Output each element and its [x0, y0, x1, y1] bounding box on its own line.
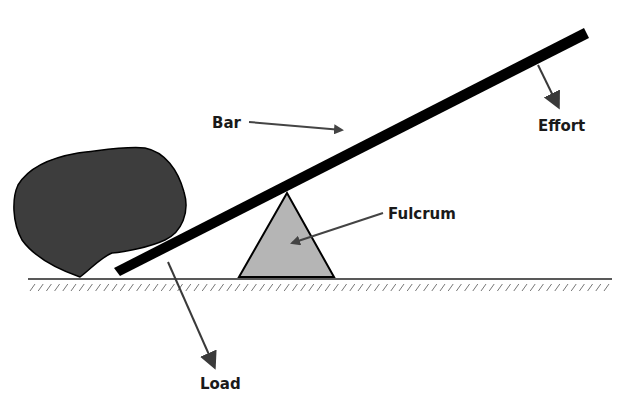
- hatch-mark: [169, 284, 174, 291]
- hatch-mark: [415, 284, 420, 291]
- hatch-mark: [46, 284, 51, 291]
- hatch-mark: [489, 284, 494, 291]
- bar-arrow: [249, 122, 342, 130]
- hatch-mark: [227, 284, 232, 291]
- hatch-mark: [202, 284, 207, 291]
- hatch-mark: [579, 284, 584, 291]
- hatch-mark: [448, 284, 453, 291]
- hatch-mark: [301, 284, 306, 291]
- hatch-mark: [153, 284, 158, 291]
- hatch-mark: [55, 284, 60, 291]
- hatch-mark: [465, 284, 470, 291]
- hatch-mark: [284, 284, 289, 291]
- hatch-mark: [514, 284, 519, 291]
- hatch-mark: [325, 284, 330, 291]
- hatch-mark: [38, 284, 43, 291]
- hatch-mark: [481, 284, 486, 291]
- hatch-mark: [473, 284, 478, 291]
- hatch-mark: [547, 284, 552, 291]
- hatch-mark: [563, 284, 568, 291]
- hatch-mark: [358, 284, 363, 291]
- hatch-mark: [112, 284, 117, 291]
- hatch-mark: [210, 284, 215, 291]
- hatch-mark: [268, 284, 273, 291]
- hatch-mark: [588, 284, 593, 291]
- hatch-mark: [604, 284, 609, 291]
- hatch-mark: [555, 284, 560, 291]
- hatch-mark: [506, 284, 511, 291]
- hatch-mark: [317, 284, 322, 291]
- effort-label: Effort: [538, 117, 585, 135]
- hatch-mark: [432, 284, 437, 291]
- hatch-mark: [399, 284, 404, 291]
- bar-label: Bar: [212, 114, 242, 132]
- hatch-mark: [407, 284, 412, 291]
- hatch-mark: [145, 284, 150, 291]
- hatch-mark: [260, 284, 265, 291]
- load-rock: [14, 147, 186, 277]
- hatch-mark: [104, 284, 109, 291]
- hatch-mark: [456, 284, 461, 291]
- ground-hatching: [30, 284, 609, 291]
- hatch-mark: [79, 284, 84, 291]
- hatch-mark: [292, 284, 297, 291]
- hatch-mark: [128, 284, 133, 291]
- hatch-mark: [235, 284, 240, 291]
- hatch-mark: [366, 284, 371, 291]
- hatch-mark: [350, 284, 355, 291]
- hatch-mark: [571, 284, 576, 291]
- hatch-mark: [596, 284, 601, 291]
- lever-diagram: Bar Effort Fulcrum Load: [0, 0, 627, 403]
- hatch-mark: [440, 284, 445, 291]
- hatch-mark: [71, 284, 76, 291]
- hatch-mark: [96, 284, 101, 291]
- fulcrum-label: Fulcrum: [388, 205, 456, 223]
- load-label: Load: [200, 375, 241, 393]
- lever-bar: [114, 28, 589, 276]
- hatch-mark: [243, 284, 248, 291]
- hatch-mark: [538, 284, 543, 291]
- load-arrow: [168, 262, 214, 366]
- hatch-mark: [309, 284, 314, 291]
- hatch-mark: [342, 284, 347, 291]
- hatch-mark: [424, 284, 429, 291]
- hatch-mark: [374, 284, 379, 291]
- hatch-mark: [219, 284, 224, 291]
- hatch-mark: [530, 284, 535, 291]
- hatch-mark: [87, 284, 92, 291]
- hatch-mark: [391, 284, 396, 291]
- hatch-mark: [137, 284, 142, 291]
- ground: [28, 279, 612, 291]
- hatch-mark: [251, 284, 256, 291]
- hatch-mark: [30, 284, 35, 291]
- hatch-mark: [63, 284, 68, 291]
- hatch-mark: [194, 284, 199, 291]
- hatch-mark: [383, 284, 388, 291]
- hatch-mark: [161, 284, 166, 291]
- hatch-mark: [120, 284, 125, 291]
- hatch-mark: [186, 284, 191, 291]
- effort-arrow: [538, 65, 558, 106]
- hatch-mark: [333, 284, 338, 291]
- hatch-mark: [276, 284, 281, 291]
- hatch-mark: [497, 284, 502, 291]
- hatch-mark: [522, 284, 527, 291]
